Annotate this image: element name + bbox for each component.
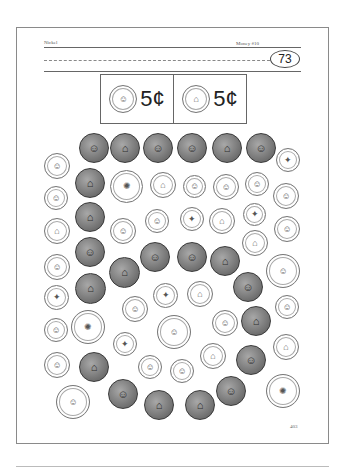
coin-glyph: ☺ [282,303,291,312]
coin-glyph: ☺ [225,386,236,397]
dime-heads-icon[interactable]: ☺ [170,359,194,383]
dime-tails-icon[interactable]: ✦ [276,148,300,172]
coin-glyph: ⌂ [91,362,98,373]
dime-heads-icon[interactable]: ☺ [44,318,68,342]
dime-tails-icon[interactable]: ✦ [44,285,69,310]
nickel-tails-icon[interactable]: ⌂ [75,202,105,232]
nickel-tails-icon[interactable]: ⌂ [241,306,271,336]
coin-glyph: ⌂ [87,283,94,294]
nickel-heads-icon[interactable]: ☺ [177,133,207,163]
coin-glyph: ☺ [177,367,186,376]
nickel-heads-icon[interactable]: ☺ [216,376,246,406]
header-bottom-rule [44,71,301,72]
nickel-tails-icon[interactable]: ⌂ [75,273,106,304]
coin-glyph: ☺ [186,252,197,263]
penny-tails-icon[interactable]: ⌂ [187,281,213,307]
coin-glyph: ☺ [281,192,290,201]
coin-glyph: ✦ [53,293,61,302]
nickel-tails-icon[interactable]: ⌂ [79,352,109,382]
penny-tails-icon[interactable]: ⌂ [273,334,299,360]
penny-heads-icon[interactable]: ☺ [274,216,300,242]
penny-tails-icon[interactable]: ⌂ [150,172,176,198]
nickel-tails-icon[interactable]: ⌂ [210,246,240,276]
quarter-tails-icon[interactable]: ✺ [266,374,300,408]
nickel-tails-icon[interactable]: ⌂ [109,257,140,288]
penny-heads-icon[interactable]: ☺ [44,254,70,280]
dime-heads-icon[interactable]: ☺ [145,209,169,233]
nickel-heads-icon[interactable]: ☺ [140,242,170,272]
dime-tails-icon[interactable]: ✦ [243,203,266,226]
penny-tails-icon[interactable]: ⌂ [44,218,70,244]
nickel-tails-icon[interactable]: ⌂ [185,390,215,420]
coin-glyph: ⌂ [87,212,94,223]
coin-glyph: ☺ [68,398,77,407]
header-rule [44,47,301,48]
nickel-heads-icon[interactable]: ☺ [75,237,105,267]
nickel-heads-icon[interactable]: ☺ [79,133,109,163]
nickel-heads-icon[interactable]: ☺ [233,272,263,302]
nickel-tails-icon: ⌂ [182,85,210,113]
coin-glyph: ⌂ [160,181,165,190]
dime-heads-icon[interactable]: ☺ [44,186,68,210]
coin-glyph: ✦ [121,340,129,349]
coin-glyph: ☺ [152,217,161,226]
coin-glyph: ☺ [282,225,291,234]
coin-glyph: ⌂ [197,290,202,299]
coin-glyph: ⌂ [122,143,129,154]
dime-tails-icon[interactable]: ✦ [180,207,204,231]
coin-glyph: ☺ [242,282,253,293]
coin-glyph: ☺ [245,355,256,366]
coin-glyph: ☺ [149,252,160,263]
coin-glyph: ☺ [186,143,197,154]
dime-heads-icon[interactable]: ☺ [183,175,206,198]
coin-glyph: ☺ [51,194,60,203]
dime-heads-icon[interactable]: ☺ [245,172,269,196]
coin-glyph: ☺ [169,328,178,337]
quarter-tails-icon[interactable]: ✺ [71,310,105,344]
coin-glyph: ☺ [255,143,266,154]
dime-tails-icon[interactable]: ✦ [113,332,137,356]
quarter-heads-icon[interactable]: ☺ [157,315,191,349]
dime-heads-icon[interactable]: ☺ [138,355,162,379]
coin-glyph: ☺ [118,227,127,236]
penny-heads-icon[interactable]: ☺ [213,174,239,200]
coin-glyph: ⌂ [87,178,94,189]
nickel-tails-icon[interactable]: ⌂ [110,133,140,163]
penny-heads-icon[interactable]: ☺ [273,183,299,209]
penny-tails-icon[interactable]: ⌂ [242,230,268,256]
penny-tails-icon[interactable]: ⌂ [200,343,226,369]
penny-heads-icon[interactable]: ☺ [110,218,136,244]
penny-heads-icon[interactable]: ☺ [44,352,70,378]
nickel-value-key: ☺ 5¢ ⌂ 5¢ [100,74,247,124]
coin-glyph: ✦ [188,215,196,224]
coin-glyph: ☺ [117,389,128,400]
penny-tails-icon[interactable]: ⌂ [209,208,235,234]
coin-glyph: ☺ [145,363,154,372]
page-number: 403 [290,424,298,429]
nickel-tails-icon[interactable]: ⌂ [212,133,242,163]
quarter-tails-icon[interactable]: ✺ [110,170,143,203]
nickel-heads-icon[interactable]: ☺ [246,133,276,163]
dime-tails-icon[interactable]: ✦ [153,283,178,308]
coin-glyph: ⌂ [283,343,288,352]
coin-glyph: ⌂ [121,267,128,278]
penny-heads-icon[interactable]: ☺ [212,310,238,336]
penny-heads-icon[interactable]: ☺ [44,153,70,179]
quarter-heads-icon[interactable]: ☺ [266,254,300,288]
coin-glyph: ☺ [152,143,163,154]
penny-heads-icon[interactable]: ☺ [122,296,148,322]
nickel-heads-icon[interactable]: ☺ [236,345,266,375]
nickel-heads-icon[interactable]: ☺ [108,379,138,409]
quarter-heads-icon[interactable]: ☺ [56,385,90,419]
nickel-heads-icon[interactable]: ☺ [177,242,207,272]
nickel-heads-icon[interactable]: ☺ [143,133,173,163]
worksheet-title: Nickel [44,40,57,45]
dime-heads-icon[interactable]: ☺ [275,295,299,319]
key-nickel-heads: ☺ 5¢ [101,75,173,123]
coin-glyph: ⌂ [253,316,260,327]
coin-glyph: ☺ [220,319,229,328]
nickel-tails-icon[interactable]: ⌂ [144,390,174,420]
coin-glyph: ☺ [51,326,60,335]
nickel-tails-icon[interactable]: ⌂ [75,168,105,198]
coin-glyph: ⌂ [222,256,229,267]
